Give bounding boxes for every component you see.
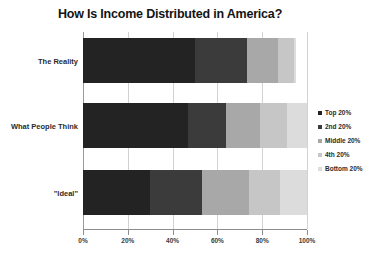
legend-swatch-icon <box>318 111 322 115</box>
legend-item[interactable]: Bottom 20% <box>318 162 387 175</box>
x-axis-tick <box>83 230 84 235</box>
x-axis-tick-label: 40% <box>166 237 179 244</box>
bar-stack <box>83 38 307 83</box>
bar-segment[interactable] <box>83 38 195 83</box>
bar-segment[interactable] <box>83 103 188 148</box>
bar-stack <box>83 103 307 148</box>
legend-label: Top 20% <box>325 109 351 116</box>
bar-segment[interactable] <box>278 38 294 83</box>
bar-segment[interactable] <box>226 103 260 148</box>
legend-label: 2nd 20% <box>325 123 351 130</box>
x-axis-tick <box>128 230 129 235</box>
bar-segment[interactable] <box>202 170 249 215</box>
x-axis-tick-label: 0% <box>78 237 87 244</box>
bar-segment[interactable] <box>247 38 278 83</box>
category-label: "Ideal" <box>4 189 78 198</box>
bar-segment[interactable] <box>280 170 307 215</box>
x-axis-tick-label: 60% <box>211 237 224 244</box>
legend-swatch-icon <box>318 125 322 129</box>
x-axis-tick <box>173 230 174 235</box>
bar-segment[interactable] <box>188 103 226 148</box>
bar-segment[interactable] <box>83 170 150 215</box>
x-axis: 0%20%40%60%80%100% <box>83 229 307 236</box>
bar-row[interactable] <box>83 103 307 148</box>
legend-label: Bottom 20% <box>325 165 363 172</box>
gridline-100 <box>307 32 308 229</box>
x-axis-tick-label: 80% <box>256 237 269 244</box>
legend-item[interactable]: 4th 20% <box>318 148 387 161</box>
legend-item[interactable]: 2nd 20% <box>318 120 387 133</box>
category-label: The Reality <box>4 57 78 66</box>
chart-title: How Is Income Distributed in America? <box>0 7 340 21</box>
x-axis-tick <box>307 230 308 235</box>
bar-segment[interactable] <box>150 170 202 215</box>
category-axis-labels: The RealityWhat People Think"Ideal" <box>0 32 78 229</box>
x-axis-tick <box>262 230 263 235</box>
bar-row[interactable] <box>83 170 307 215</box>
bar-segment[interactable] <box>195 38 247 83</box>
x-axis-tick <box>217 230 218 235</box>
legend-label: 4th 20% <box>325 151 350 158</box>
plot-area <box>83 32 307 229</box>
chart-legend: Top 20%2nd 20%Middle 20%4th 20%Bottom 20… <box>318 106 387 176</box>
bar-segment[interactable] <box>249 170 280 215</box>
category-label: What People Think <box>4 122 78 131</box>
bar-segment[interactable] <box>260 103 287 148</box>
legend-item[interactable]: Middle 20% <box>318 134 387 147</box>
x-axis-tick-label: 20% <box>121 237 134 244</box>
bar-segment[interactable] <box>287 103 307 148</box>
bar-row[interactable] <box>83 38 307 83</box>
bar-stack <box>83 170 307 215</box>
legend-item[interactable]: Top 20% <box>318 106 387 119</box>
x-axis-tick-label: 100% <box>299 237 316 244</box>
legend-swatch-icon <box>318 167 322 171</box>
bar-segment[interactable] <box>294 38 296 83</box>
income-distribution-chart: How Is Income Distributed in America? Th… <box>0 0 387 261</box>
legend-label: Middle 20% <box>325 137 360 144</box>
legend-swatch-icon <box>318 139 322 143</box>
legend-swatch-icon <box>318 153 322 157</box>
